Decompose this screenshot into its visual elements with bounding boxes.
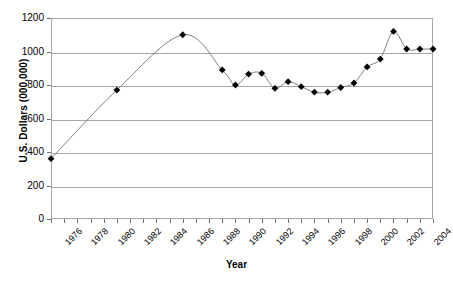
data-point-marker bbox=[285, 78, 292, 85]
data-point-marker bbox=[416, 46, 423, 53]
data-point-marker bbox=[179, 31, 186, 38]
data-point-marker bbox=[298, 83, 305, 90]
series-markers bbox=[48, 28, 437, 162]
x-axis-title-text: Year bbox=[226, 259, 247, 270]
series-line bbox=[51, 31, 433, 158]
data-point-marker bbox=[337, 84, 344, 91]
data-point-marker bbox=[232, 82, 239, 89]
data-point-marker bbox=[324, 89, 331, 96]
data-point-marker bbox=[430, 46, 437, 53]
data-point-marker bbox=[311, 89, 318, 96]
x-axis-title: Year bbox=[0, 259, 449, 270]
